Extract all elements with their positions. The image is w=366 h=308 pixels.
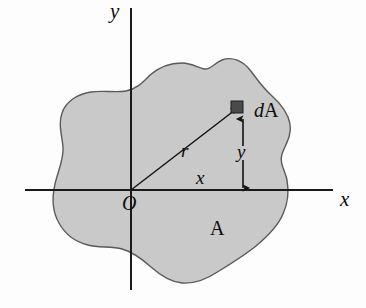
x-distance-label: x [196, 168, 204, 187]
area-element-d-part: d [254, 99, 264, 121]
area-element-label: dA [254, 100, 278, 120]
region-label: A [210, 218, 224, 238]
area-element-a-part: A [264, 99, 278, 121]
radius-label: r [181, 141, 188, 160]
region-area-shape [53, 59, 290, 284]
figure-container: y x O r x y dA A [0, 0, 366, 308]
y-distance-label: y [237, 142, 245, 161]
area-element-marker [231, 101, 243, 113]
y-axis-label: y [110, 1, 119, 22]
x-axis-label: x [340, 189, 349, 210]
origin-label: O [122, 193, 136, 213]
